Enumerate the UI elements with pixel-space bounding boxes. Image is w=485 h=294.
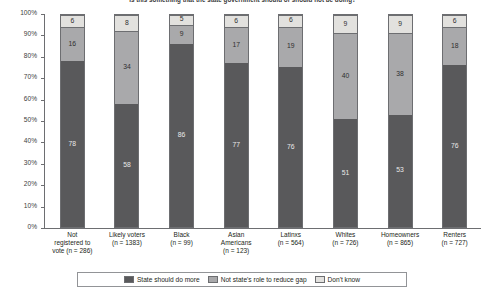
bar-segment[interactable]: 16 (60, 27, 85, 61)
bar-group[interactable]: 76186 (442, 14, 467, 228)
segment-divider (224, 27, 249, 28)
bar-segment[interactable]: 5 (169, 14, 194, 25)
bar-segment[interactable]: 17 (224, 27, 249, 63)
bar-group[interactable]: 53389 (388, 14, 413, 228)
x-axis-label-line: (n = 865) (387, 239, 413, 246)
x-axis-label-line: Latinxs (281, 231, 302, 238)
y-axis-tick-mark (41, 121, 44, 122)
y-axis-tick-label: 10% (24, 202, 37, 209)
y-axis-tick-mark (41, 185, 44, 186)
bar-segment[interactable]: 53 (388, 115, 413, 228)
bar-segment-value: 18 (451, 43, 459, 50)
bar-segment-value: 6 (234, 18, 238, 25)
x-axis-label-line: vote (n = 286) (52, 247, 92, 254)
x-axis-label-line: Likely voters (109, 231, 145, 238)
bar-group[interactable]: 76196 (278, 14, 303, 228)
bar-segment[interactable]: 76 (278, 67, 303, 228)
x-axis-label-line: (n = 726) (332, 239, 358, 246)
bar-group[interactable]: 58348 (114, 14, 139, 228)
stacked-bar-chart: Is this something that the state governm… (0, 0, 485, 294)
bar-segment[interactable]: 6 (278, 14, 303, 27)
bar-group[interactable]: 51409 (333, 14, 358, 228)
legend-label: Don't know (328, 276, 360, 283)
y-axis-tick-label: 80% (24, 52, 37, 59)
segment-divider (333, 15, 358, 16)
bar-segment-value: 17 (232, 42, 240, 49)
x-axis-label: Likely voters(n = 1383) (100, 231, 155, 247)
segment-divider (114, 15, 139, 16)
bar-segment[interactable]: 51 (333, 119, 358, 228)
bar-segment-value: 6 (453, 18, 457, 25)
x-axis-label: AsianAmericans(n = 123) (209, 231, 264, 256)
x-axis-label-line: Black (174, 231, 190, 238)
y-axis-tick-label: 20% (24, 180, 37, 187)
y-axis-tick-label: 30% (24, 159, 37, 166)
bar-segment[interactable]: 6 (60, 14, 85, 27)
segment-divider (333, 33, 358, 34)
y-axis-tick-mark (41, 78, 44, 79)
bar-segment[interactable]: 77 (224, 63, 249, 228)
bar-segment[interactable]: 34 (114, 31, 139, 104)
bar-segment-value: 86 (178, 132, 186, 139)
bar-segment[interactable]: 40 (333, 33, 358, 119)
y-axis-tick-mark (41, 228, 44, 229)
bar-segment-value: 9 (180, 31, 184, 38)
legend-item[interactable]: Don't know (315, 276, 360, 283)
bar-segment[interactable]: 6 (442, 14, 467, 27)
bar-segment-value: 34 (123, 64, 131, 71)
bar-segment[interactable]: 86 (169, 44, 194, 228)
bar-segment[interactable]: 58 (114, 104, 139, 228)
x-axis-label: Homeowners(n = 865) (373, 231, 428, 247)
bar-segment[interactable]: 38 (388, 33, 413, 114)
bar-segment[interactable]: 9 (388, 14, 413, 33)
bar-segment-value: 8 (125, 20, 129, 27)
bar-group[interactable]: 77176 (224, 14, 249, 228)
bar-segment-value: 9 (398, 21, 402, 28)
segment-divider (60, 15, 85, 16)
bar-segment-value: 77 (232, 142, 240, 149)
segment-divider (169, 25, 194, 26)
y-axis-tick-label: 50% (24, 116, 37, 123)
bar-group[interactable]: 8695 (169, 14, 194, 228)
x-axis-label: Black(n = 99) (154, 231, 209, 247)
bar-segment[interactable]: 19 (278, 27, 303, 67)
x-axis-label-line: registered to (54, 239, 90, 246)
bar-segment[interactable]: 76 (442, 65, 467, 228)
x-axis-label: Latinxs(n = 564) (264, 231, 319, 247)
bar-segment[interactable]: 9 (169, 25, 194, 44)
segment-divider (60, 27, 85, 28)
bar-segment[interactable]: 6 (224, 14, 249, 27)
chart-legend: State should do moreNot state's role to … (77, 272, 407, 287)
bar-segment[interactable]: 18 (442, 27, 467, 66)
legend-item[interactable]: Not state's role to reduce gap (208, 276, 307, 283)
bar-segment-value: 38 (396, 71, 404, 78)
x-axis-labels: Notregistered tovote (n = 286)Likely vot… (44, 231, 481, 265)
y-axis-tick-mark (41, 35, 44, 36)
x-axis-label-line: Homeowners (381, 231, 419, 238)
x-axis-label: Renters(n = 727) (427, 231, 482, 247)
x-axis-label-line: (n = 1383) (112, 239, 142, 246)
bar-segment-value: 51 (342, 170, 350, 177)
x-axis-label-line: (n = 727) (442, 239, 468, 246)
x-axis-line (44, 228, 481, 229)
bar-segment-value: 58 (123, 162, 131, 169)
y-axis-tick-label: 90% (24, 30, 37, 37)
y-axis-tick-label: 60% (24, 95, 37, 102)
bar-segment-value: 78 (69, 141, 77, 148)
bar-segment[interactable]: 78 (60, 61, 85, 228)
y-axis-tick-mark (41, 164, 44, 165)
bar-segment[interactable]: 8 (114, 14, 139, 31)
x-axis-label-line: Asian (228, 231, 244, 238)
plot-area: 781665834886957717676196514095338976186 … (44, 14, 481, 228)
legend-label: State should do more (137, 276, 200, 283)
bar-segment-value: 6 (70, 18, 74, 25)
legend-item[interactable]: State should do more (124, 276, 200, 283)
x-axis-label-line: Not (67, 231, 77, 238)
bar-segment-value: 6 (289, 17, 293, 24)
y-axis-tick-mark (41, 57, 44, 58)
bar-group[interactable]: 78166 (60, 14, 85, 228)
segment-divider (442, 15, 467, 16)
legend-color-swatch (315, 276, 325, 283)
bar-segment-value: 5 (180, 16, 184, 23)
bar-segment[interactable]: 9 (333, 14, 358, 33)
